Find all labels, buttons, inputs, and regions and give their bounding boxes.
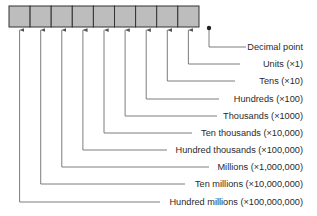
register-cell-2	[30, 6, 51, 27]
leader-lines	[20, 30, 246, 202]
label-hundreds: Hundreds (×100)	[234, 94, 303, 104]
register-cell-3	[51, 6, 72, 27]
leader-thousands	[125, 30, 217, 116]
register-cell-8	[157, 6, 178, 27]
place-labels: Decimal point Units (×1) Tens (×10) Hund…	[169, 42, 303, 207]
register-cell-7	[136, 6, 157, 27]
label-ten-thousands: Ten thousands (×10,000)	[201, 128, 303, 138]
label-ten-millions: Ten millions (×10,000,000)	[195, 179, 303, 189]
label-decimal-point: Decimal point	[247, 42, 303, 52]
decimal-point-dot	[207, 26, 211, 30]
leader-tens	[167, 30, 235, 81]
place-value-diagram: Decimal point Units (×1) Tens (×10) Hund…	[0, 0, 317, 216]
leader-ten-millions	[41, 30, 185, 184]
register-cell-6	[115, 6, 136, 27]
label-hundred-thousands: Hundred thousands (×100,000)	[176, 145, 303, 155]
register-cell-4	[72, 6, 93, 27]
register-cell-9	[178, 6, 199, 27]
label-millions: Millions (×1,000,000)	[217, 162, 303, 172]
leader-hundreds	[146, 30, 219, 99]
label-tens: Tens (×10)	[259, 76, 303, 86]
leader-decimal-point	[209, 30, 246, 47]
register-cells	[9, 6, 199, 27]
register-cell-5	[93, 6, 114, 27]
leader-ten-thousands	[104, 30, 192, 133]
label-units: Units (×1)	[263, 59, 303, 69]
label-hundred-millions: Hundred millions (×100,000,000)	[169, 197, 303, 207]
label-thousands: Thousands (×1000)	[223, 111, 303, 121]
register-cell-1	[9, 6, 30, 27]
